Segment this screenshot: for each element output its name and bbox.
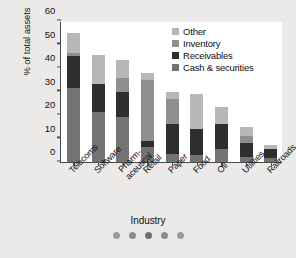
legend-label: Other bbox=[183, 26, 206, 37]
y-axis-tick-label: 50 bbox=[31, 28, 55, 39]
bar-segment bbox=[240, 127, 253, 136]
dot-2[interactable] bbox=[129, 232, 136, 239]
bar-segment bbox=[67, 88, 80, 162]
legend-label: Cash & securities bbox=[183, 62, 254, 73]
bar-segment bbox=[67, 56, 80, 88]
legend-item[interactable]: Cash & securities bbox=[172, 62, 254, 73]
y-axis-tick-mark bbox=[57, 113, 61, 114]
y-axis-tick-mark bbox=[57, 90, 61, 91]
legend-swatch-icon bbox=[172, 28, 179, 35]
x-axis-title: Industry bbox=[0, 215, 296, 226]
y-axis-tick-label: 30 bbox=[31, 75, 55, 86]
bar-segment bbox=[116, 92, 129, 117]
bar-stack bbox=[215, 107, 228, 162]
y-axis-tick-label: 60 bbox=[31, 5, 55, 16]
bar-segment bbox=[166, 92, 179, 99]
y-axis-tick-mark bbox=[57, 137, 61, 138]
legend-swatch-icon bbox=[172, 40, 179, 47]
bar-segment bbox=[92, 55, 105, 84]
y-axis-tick-mark bbox=[57, 43, 61, 44]
chart-figure: % of total assets 0102030405060 Industry… bbox=[0, 0, 296, 258]
bar-segment bbox=[240, 136, 253, 143]
bar-stack bbox=[166, 92, 179, 162]
bar-segment bbox=[190, 129, 203, 154]
legend-label: Receivables bbox=[183, 50, 233, 61]
legend-swatch-icon bbox=[172, 52, 179, 59]
bar-stack bbox=[67, 33, 80, 162]
dot-1[interactable] bbox=[113, 232, 120, 239]
dot-3[interactable] bbox=[145, 232, 152, 239]
pagination-dots[interactable] bbox=[0, 232, 296, 239]
dot-5[interactable] bbox=[177, 232, 184, 239]
bar-segment bbox=[166, 99, 179, 125]
chart-legend: OtherInventoryReceivablesCash & securiti… bbox=[172, 26, 254, 73]
legend-swatch-icon bbox=[172, 64, 179, 71]
y-axis-tick-label: 0 bbox=[31, 146, 55, 157]
y-axis-tick-mark bbox=[57, 160, 61, 161]
bar-segment bbox=[92, 84, 105, 112]
bar-segment bbox=[116, 78, 129, 93]
bar-segment bbox=[67, 33, 80, 53]
legend-label: Inventory bbox=[183, 38, 220, 49]
bar-stack bbox=[190, 94, 203, 162]
y-axis-tick-label: 10 bbox=[31, 122, 55, 133]
legend-item[interactable]: Other bbox=[172, 26, 254, 37]
bar-segment bbox=[240, 143, 253, 157]
bar-segment bbox=[190, 94, 203, 129]
bar-segment bbox=[141, 80, 154, 141]
bar-segment bbox=[116, 60, 129, 78]
bar-segment bbox=[166, 124, 179, 153]
y-axis-tick-mark bbox=[57, 19, 61, 20]
y-axis-tick-mark bbox=[57, 66, 61, 67]
legend-item[interactable]: Receivables bbox=[172, 50, 254, 61]
dot-4[interactable] bbox=[161, 232, 168, 239]
y-axis-tick-label: 20 bbox=[31, 99, 55, 110]
legend-item[interactable]: Inventory bbox=[172, 38, 254, 49]
bar-segment bbox=[215, 107, 228, 124]
bar-segment bbox=[141, 73, 154, 80]
y-axis-tick-label: 40 bbox=[31, 52, 55, 63]
bar-segment bbox=[215, 124, 228, 149]
